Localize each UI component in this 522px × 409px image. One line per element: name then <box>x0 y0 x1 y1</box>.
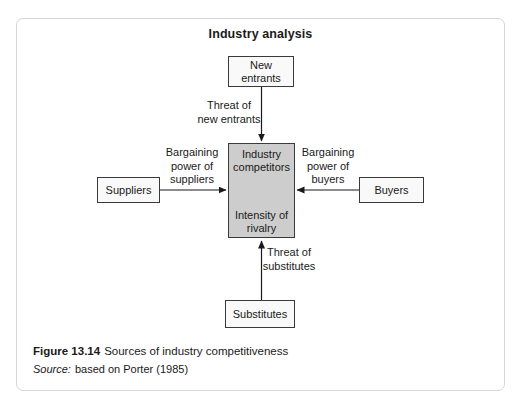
node-suppliers: Suppliers <box>97 177 160 203</box>
figure-source-text: based on Porter (1985) <box>75 363 188 375</box>
threat-substitutes-label: Threat of substitutes <box>254 246 324 273</box>
threat-new-entrants-label: Threat of new entrants <box>184 99 274 126</box>
figure-caption: Figure 13.14Sources of industry competit… <box>33 345 288 357</box>
diagram-title: Industry analysis <box>16 27 505 41</box>
node-industry-competitors: Industry competitors Intensity of rivalr… <box>228 143 295 238</box>
figure-page: Industry analysis New entrants Suppliers… <box>0 0 522 409</box>
figure-source: Source:based on Porter (1985) <box>33 363 188 375</box>
bargaining-power-buyers-label: Bargaining power of buyers <box>288 146 368 187</box>
figure-source-label: Source: <box>33 363 71 375</box>
node-substitutes: Substitutes <box>225 300 295 328</box>
node-industry-competitors-label: Industry competitors <box>233 148 290 174</box>
node-suppliers-label: Suppliers <box>106 184 152 197</box>
node-buyers-label: Buyers <box>374 184 408 197</box>
node-buyers: Buyers <box>359 177 424 203</box>
bargaining-power-suppliers-label: Bargaining power of suppliers <box>152 146 232 187</box>
node-new-entrants-label: New entrants <box>241 59 281 85</box>
figure-caption-number: Figure 13.14 <box>33 345 100 357</box>
node-intensity-rivalry-label: Intensity of rivalry <box>235 209 288 235</box>
node-new-entrants: New entrants <box>228 56 294 87</box>
figure-caption-text: Sources of industry competitiveness <box>104 345 288 357</box>
node-substitutes-label: Substitutes <box>233 308 287 321</box>
